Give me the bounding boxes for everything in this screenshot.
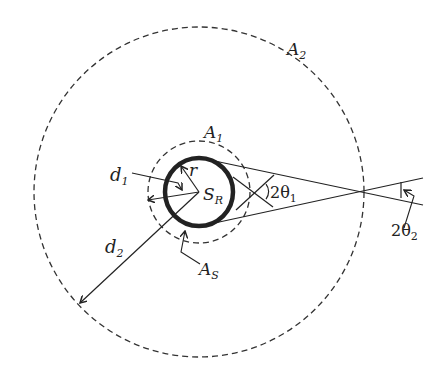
label-sr: SR <box>203 184 223 207</box>
label-a2: A2 <box>285 39 306 62</box>
diagram-canvas: A2 A1 r SR d1 d2 AS 2θ1 2θ2 <box>0 0 443 382</box>
label-d2: d2 <box>105 236 124 260</box>
label-as: AS <box>197 259 219 282</box>
label-r: r <box>189 160 198 180</box>
view-cone-lines <box>210 160 423 224</box>
d2-arrow <box>80 192 199 303</box>
label-a1: A1 <box>202 122 223 145</box>
label-theta1: 2θ1 <box>270 183 297 205</box>
d1-leader <box>132 173 182 190</box>
label-d1: d1 <box>110 164 129 188</box>
label-theta2: 2θ2 <box>391 221 418 243</box>
as-leader <box>181 231 200 264</box>
